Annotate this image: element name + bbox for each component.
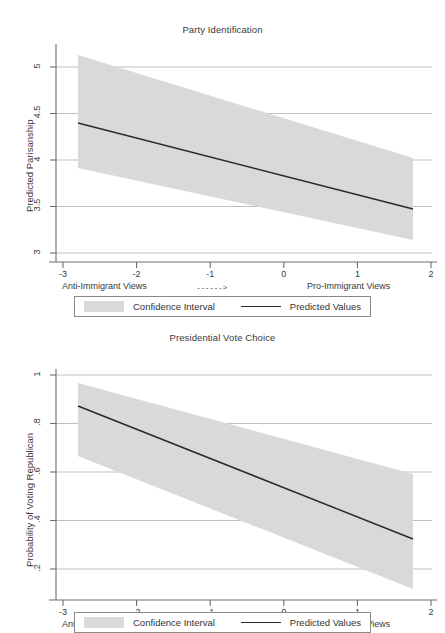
y-axis-vote bbox=[50, 369, 56, 600]
chart-panel-party-identification: Party Identification bbox=[0, 0, 445, 320]
y-tick-label-_2: .2 bbox=[32, 557, 42, 579]
y-tick-label-_4: .4 bbox=[32, 508, 42, 530]
x-axis-vote bbox=[49, 600, 437, 606]
legend-party-identification: Confidence Interval Predicted Values bbox=[74, 296, 371, 317]
legend-label-predicted-values: Predicted Values bbox=[290, 617, 361, 628]
y-tick-label-1: 1 bbox=[32, 363, 42, 385]
x-tick-label-2: 2 bbox=[417, 607, 445, 617]
x-tick-label--2: -2 bbox=[123, 269, 151, 279]
y-tick-label-_8: .8 bbox=[32, 411, 42, 433]
plot-area-presidential-vote-choice bbox=[0, 318, 445, 633]
legend-label-confidence-interval: Confidence Interval bbox=[133, 301, 215, 312]
legend-entry-confidence-interval: Confidence Interval bbox=[84, 301, 215, 312]
y-tick-label-_6: .6 bbox=[32, 460, 42, 482]
confidence-interval-band-party bbox=[78, 55, 413, 240]
chart-panel-presidential-vote-choice: Presidential Vote Choice bbox=[0, 318, 445, 633]
x-axis-direction-arrow: ------> bbox=[196, 283, 227, 292]
legend-swatch-icon bbox=[84, 301, 124, 312]
figure-container: Party Identification bbox=[0, 0, 445, 633]
y-tick-label-3_5: 3.5 bbox=[32, 194, 42, 216]
legend-line-icon bbox=[241, 622, 281, 623]
y-axis-party bbox=[50, 44, 56, 262]
y-tick-label-5: 5 bbox=[32, 55, 42, 77]
x-tick-label-2: 2 bbox=[417, 269, 445, 279]
legend-entry-confidence-interval: Confidence Interval bbox=[84, 617, 215, 628]
confidence-interval-band-vote bbox=[78, 383, 413, 589]
x-tick-label-0: 0 bbox=[270, 269, 298, 279]
x-tick-label--3: -3 bbox=[49, 269, 77, 279]
legend-presidential-vote-choice: Confidence Interval Predicted Values bbox=[74, 612, 371, 633]
legend-label-confidence-interval: Confidence Interval bbox=[133, 617, 215, 628]
legend-label-predicted-values: Predicted Values bbox=[290, 301, 361, 312]
x-tick-label--1: -1 bbox=[196, 269, 224, 279]
legend-line-icon bbox=[241, 306, 281, 307]
x-tick-label--3: -3 bbox=[49, 607, 77, 617]
y-tick-label-3: 3 bbox=[32, 241, 42, 263]
legend-entry-predicted-values: Predicted Values bbox=[241, 617, 361, 628]
x-axis-note-pro-immigrant: Pro-Immigrant Views bbox=[307, 281, 390, 291]
y-tick-label-4: 4 bbox=[32, 148, 42, 170]
y-axis-label-vote: Probability of Voting Republican bbox=[24, 433, 35, 567]
legend-swatch-icon bbox=[84, 617, 124, 628]
legend-entry-predicted-values: Predicted Values bbox=[241, 301, 361, 312]
x-axis-note-anti-immigrant: Anti-Immigrant Views bbox=[62, 281, 147, 291]
x-tick-label-1: 1 bbox=[343, 269, 371, 279]
x-axis-party bbox=[49, 262, 437, 268]
y-tick-label-4_5: 4.5 bbox=[32, 101, 42, 123]
